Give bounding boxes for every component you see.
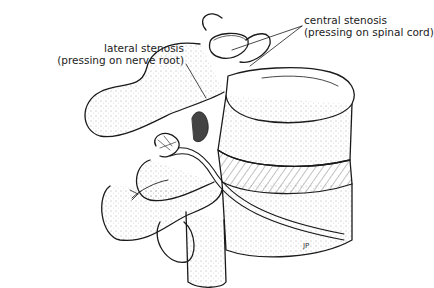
label-lateral-title: lateral stenosis xyxy=(34,42,184,54)
label-lateral-stenosis: lateral stenosis (pressing on nerve root… xyxy=(34,42,184,66)
artist-signature: JP xyxy=(303,242,309,250)
label-central-title: central stenosis xyxy=(304,14,434,26)
leader-central xyxy=(232,26,302,66)
inferior-articular-process xyxy=(186,212,226,287)
label-central-desc: (pressing on spinal cord) xyxy=(304,26,434,38)
label-lateral-desc: (pressing on nerve root) xyxy=(34,54,184,66)
label-central-stenosis: central stenosis (pressing on spinal cor… xyxy=(304,14,434,38)
vertebral-body-side xyxy=(218,96,352,166)
